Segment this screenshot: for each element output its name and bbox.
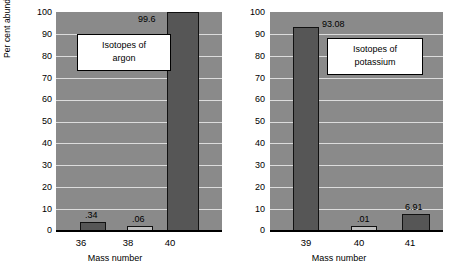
y-tick-40: 40 xyxy=(255,139,265,148)
y-tick-100: 100 xyxy=(250,8,265,17)
y-tick-40: 40 xyxy=(42,139,52,148)
y-tick-60: 60 xyxy=(255,95,265,104)
bar-potassium-41 xyxy=(402,214,430,231)
chart-panel-argon: Per cent abundance 100 90 80 70 60 50 40… xyxy=(0,0,230,276)
x-axis-line-right xyxy=(270,230,443,232)
bar-argon-40 xyxy=(167,12,199,231)
callout-line-1: Isotopes of xyxy=(86,39,162,52)
x-axis-title-left: Mass number xyxy=(0,253,230,263)
plot-area-argon: .34 .06 99.6 Isotopes of argon xyxy=(56,12,222,231)
y-tick-80: 80 xyxy=(42,52,52,61)
x-tick-argon-40: 40 xyxy=(145,238,195,248)
y-tick-30: 30 xyxy=(255,161,265,170)
y-tick-90: 90 xyxy=(255,30,265,39)
callout-line-1: Isotopes of xyxy=(336,43,414,56)
bar-value-label-potassium-39: 93.08 xyxy=(322,19,345,29)
x-tick-potassium-39: 39 xyxy=(281,238,331,248)
y-tick-10: 10 xyxy=(42,205,52,214)
bar-value-label-argon-36: .34 xyxy=(85,210,98,220)
x-tick-argon-36: 36 xyxy=(56,238,106,248)
bar-potassium-39 xyxy=(293,27,319,231)
chart-panel-potassium: 100 90 80 70 60 50 40 30 20 10 0 xyxy=(225,0,453,276)
y-tick-50: 50 xyxy=(42,117,52,126)
bar-value-label-potassium-41: 6.91 xyxy=(405,202,423,212)
y-axis-title-left: Per cent abundance xyxy=(2,0,12,58)
plot-area-potassium: 93.08 .01 6.91 Isotopes of potassium xyxy=(270,12,443,231)
callout-line-2: argon xyxy=(86,52,162,65)
x-axis-title-right: Mass number xyxy=(225,253,453,263)
bar-value-label-argon-38: .06 xyxy=(132,214,145,224)
x-tick-potassium-41: 41 xyxy=(385,238,435,248)
callout-isotopes-of-argon: Isotopes of argon xyxy=(77,34,171,71)
y-tick-30: 30 xyxy=(42,161,52,170)
callout-isotopes-of-potassium: Isotopes of potassium xyxy=(327,38,423,75)
x-tick-potassium-40: 40 xyxy=(334,238,384,248)
y-tick-90: 90 xyxy=(42,30,52,39)
y-tick-100: 100 xyxy=(37,8,52,17)
bar-value-label-potassium-40: .01 xyxy=(357,214,370,224)
x-axis-line-left xyxy=(56,230,222,232)
bar-value-label-argon-40: 99.6 xyxy=(138,14,156,24)
y-tick-70: 70 xyxy=(42,74,52,83)
y-tick-60: 60 xyxy=(42,95,52,104)
y-tick-10: 10 xyxy=(255,205,265,214)
y-tick-80: 80 xyxy=(255,52,265,61)
callout-line-2: potassium xyxy=(336,56,414,69)
y-tick-70: 70 xyxy=(255,74,265,83)
y-tick-50: 50 xyxy=(255,117,265,126)
figure-two-isotope-bar-charts: Per cent abundance 100 90 80 70 60 50 40… xyxy=(0,0,453,276)
y-tick-20: 20 xyxy=(255,183,265,192)
y-tick-0: 0 xyxy=(47,226,52,235)
y-tick-20: 20 xyxy=(42,183,52,192)
y-tick-0: 0 xyxy=(260,226,265,235)
